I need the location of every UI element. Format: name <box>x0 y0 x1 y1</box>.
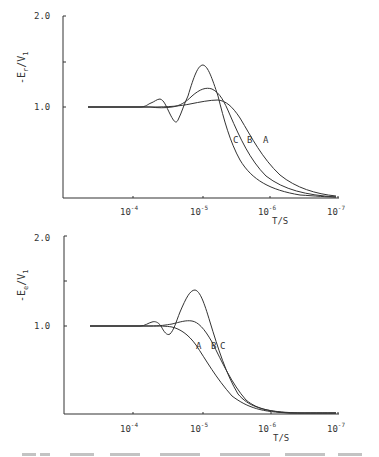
svg-text:10-7: 10-7 <box>327 204 345 217</box>
bottom-curve-B <box>90 321 336 413</box>
top-y-axis-label: -Er/V1 <box>16 51 30 84</box>
top-curve-label-C: C <box>233 135 238 145</box>
bottom-curve-A <box>90 326 336 413</box>
bottom-chart: 2.0 1.0 -Ee/V1 10-4 10-5 10-6 10-7 T/S A… <box>16 233 345 443</box>
bottom-x-axis-label: T/S <box>273 433 289 443</box>
bottom-curve-label-B: B <box>211 341 216 351</box>
caption-fragment <box>22 453 362 456</box>
svg-text:10-4: 10-4 <box>120 204 138 217</box>
bottom-x-tick-labels: 10-4 10-5 10-6 10-7 <box>120 421 345 434</box>
top-curve-B <box>88 88 336 197</box>
top-y-tick-label-1: 1.0 <box>34 102 50 112</box>
bottom-y-tick-label-1: 1.0 <box>34 321 50 331</box>
svg-text:10-4: 10-4 <box>120 421 138 434</box>
bottom-curve-label-C: C <box>220 341 225 351</box>
top-curve-label-B: B <box>247 135 252 145</box>
bottom-y-axis-label: -Ee/V1 <box>16 269 30 302</box>
svg-text:10-7: 10-7 <box>327 421 345 434</box>
bottom-curve-C <box>90 290 336 413</box>
top-chart: 2.0 1.0 -Er/V1 10-4 10-5 10-6 10-7 T/S C… <box>16 11 345 226</box>
bottom-curve-label-A: A <box>196 341 202 351</box>
top-x-tick-labels: 10-4 10-5 10-6 10-7 <box>120 204 345 217</box>
svg-text:10-5: 10-5 <box>190 204 208 217</box>
svg-text:-Er/V1: -Er/V1 <box>16 51 30 84</box>
top-x-axis-label: T/S <box>272 216 288 226</box>
figure: 2.0 1.0 -Er/V1 10-4 10-5 10-6 10-7 T/S C… <box>0 0 379 457</box>
svg-text:-Ee/V1: -Ee/V1 <box>16 269 30 302</box>
top-y-tick-label-2: 2.0 <box>34 11 50 21</box>
top-curve-label-A: A <box>263 135 269 145</box>
top-curve-C <box>88 65 336 197</box>
svg-text:10-5: 10-5 <box>190 421 208 434</box>
bottom-y-tick-label-2: 2.0 <box>34 233 50 243</box>
top-curve-A <box>88 100 336 196</box>
